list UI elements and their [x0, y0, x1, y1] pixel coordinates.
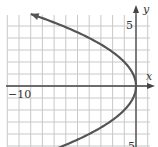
x-axis-label: x	[146, 70, 153, 83]
y-tick-label-neg5: 5	[128, 140, 135, 147]
grid-lines	[7, 15, 150, 147]
y-tick-label-5: 5	[126, 19, 133, 32]
x-tick-label-neg10: −10	[8, 88, 31, 101]
parabola-graph: y x −10 5 5	[0, 0, 158, 147]
curve-arrow-icon	[31, 13, 40, 20]
parabola-curve	[31, 14, 136, 147]
y-axis-label: y	[142, 3, 150, 16]
